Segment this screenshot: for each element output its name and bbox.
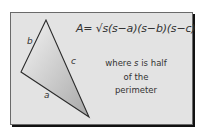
note-text: where [105,58,134,68]
formula-note: where s is half of the perimeter [100,57,172,98]
note-line-1: where s is half [100,57,172,71]
side-label-c: c [71,56,76,66]
heron-formula: A= √s(s−a)(s−b)(s−c) [76,22,195,35]
note-line-3: perimeter [100,84,172,98]
side-label-a: a [44,90,50,100]
side-label-b: b [27,36,33,46]
note-text: is half [139,58,167,68]
note-line-2: of the [100,71,172,85]
